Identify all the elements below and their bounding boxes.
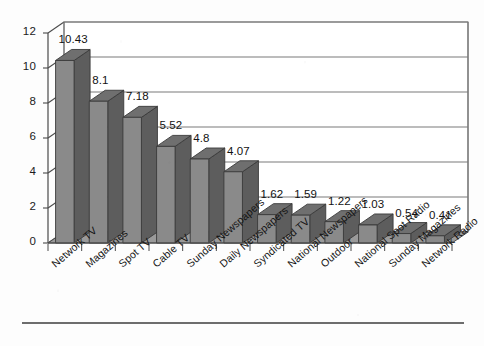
bar-side-face <box>108 90 124 243</box>
bar-value-label: 5.52 <box>160 119 183 131</box>
axis-depth-connector <box>48 22 64 33</box>
y-axis-tick-label: 10 <box>10 60 36 72</box>
chart-canvas <box>0 0 484 346</box>
bar-column <box>157 135 192 243</box>
bar-value-label: 1.62 <box>261 188 284 200</box>
y-axis-tick-label: 8 <box>10 95 36 107</box>
bar-front-face <box>123 117 142 243</box>
bar-front-face <box>190 159 209 243</box>
bar-value-label: 10.43 <box>59 33 88 45</box>
y-axis-tick-label: 6 <box>10 130 36 142</box>
bar-column <box>123 106 158 243</box>
y-axis-tick-label: 2 <box>10 200 36 212</box>
bar-column <box>56 49 91 243</box>
bar-side-face <box>74 49 90 243</box>
y-axis-tick-label: 4 <box>10 165 36 177</box>
bar-front-face <box>89 101 108 243</box>
bar-value-label: 4.8 <box>193 132 209 144</box>
bar-column <box>89 90 124 243</box>
bar-chart: 024681012 10.438.17.185.524.84.071.621.5… <box>0 0 484 346</box>
bar-value-label: 8.1 <box>92 74 108 86</box>
bar-front-face <box>157 146 176 243</box>
bar-front-face <box>56 60 75 243</box>
bar-value-label: 4.07 <box>227 145 250 157</box>
y-axis-tick-label: 12 <box>10 25 36 37</box>
bar-value-label: 1.59 <box>294 188 317 200</box>
y-axis-tick-label: 0 <box>10 235 36 247</box>
bar-side-face <box>141 106 157 243</box>
bar-side-face <box>175 135 191 243</box>
chart-page: 024681012 10.438.17.185.524.84.071.621.5… <box>0 0 484 346</box>
bar-value-label: 7.18 <box>126 90 149 102</box>
